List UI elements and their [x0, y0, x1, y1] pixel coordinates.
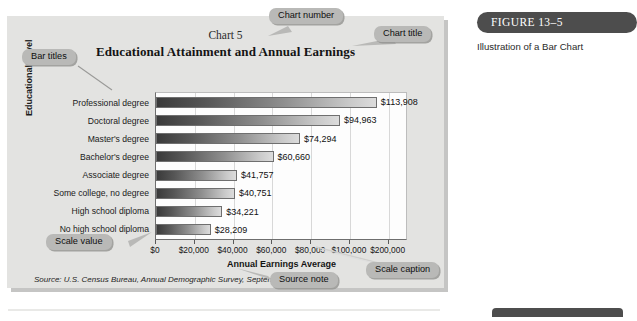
bar-series: $113,908$94,963$74,294$60,660$41,757$40,… — [156, 93, 406, 239]
figure-number-label: FIGURE 13–5 — [491, 16, 563, 28]
bar-row: $34,221 — [156, 203, 406, 221]
callout-chart-number: Chart number — [269, 8, 343, 24]
category-label: Master's degree — [37, 130, 152, 148]
callout-source-note: Source note — [270, 272, 338, 288]
x-axis-tick-label: $40,000 — [217, 245, 247, 255]
x-axis-tick — [310, 240, 311, 244]
category-label: Bachelor's degree — [37, 148, 152, 166]
bar-value-label: $40,751 — [239, 188, 272, 198]
bar-row: $113,908 — [156, 93, 406, 111]
bar-row: $28,209 — [156, 221, 406, 239]
bar — [156, 206, 222, 217]
x-axis-tick — [194, 240, 195, 244]
bar-value-label: $74,294 — [304, 134, 337, 144]
plot-area: $113,908$94,963$74,294$60,660$41,757$40,… — [155, 92, 407, 240]
figure-caption-text: Illustration of a Bar Chart — [477, 41, 583, 52]
bar-value-label: $28,209 — [215, 225, 248, 235]
category-label: Associate degree — [37, 166, 152, 184]
x-axis-tick-labels: $0$20,000$40,000$60,000$80,000$100,000$2… — [155, 245, 408, 257]
x-axis-tick-label: $60,000 — [256, 245, 286, 255]
callout-chart-title: Chart title — [374, 26, 431, 42]
bar-value-label: $60,660 — [278, 152, 311, 162]
bar-value-label: $34,221 — [226, 207, 259, 217]
bar — [156, 188, 235, 199]
bar — [156, 115, 340, 126]
x-axis-tick-label: $200,000 — [370, 245, 405, 255]
bar-row: $41,757 — [156, 166, 406, 184]
x-axis-tick — [155, 240, 156, 244]
x-axis-tick-label: $20,000 — [179, 245, 209, 255]
callout-scale-value: Scale value — [46, 234, 112, 250]
bar-row: $74,294 — [156, 130, 406, 148]
x-axis-tick-label: $0 — [150, 245, 159, 255]
category-label: Some college, no degree — [37, 184, 152, 202]
bar — [156, 151, 274, 162]
callout-bar-titles: Bar titles — [22, 49, 76, 65]
x-axis-tick — [349, 240, 350, 244]
category-label-column: Professional degreeDoctoral degreeMaster… — [37, 94, 152, 238]
category-label: High school diploma — [37, 202, 152, 220]
bar-value-label: $94,963 — [344, 115, 377, 125]
bar-row: $60,660 — [156, 148, 406, 166]
page-divider-rule — [8, 309, 440, 311]
category-label: Doctoral degree — [37, 112, 152, 130]
bar-row: $94,963 — [156, 111, 406, 129]
bar — [156, 97, 377, 108]
x-axis-tick-label: $80,000 — [295, 245, 325, 255]
bar-row: $40,751 — [156, 184, 406, 202]
x-axis-tick — [388, 240, 389, 244]
figure-number-pill: FIGURE 13–5 — [477, 12, 637, 33]
bar — [156, 133, 300, 144]
x-axis-tick — [271, 240, 272, 244]
category-label: Professional degree — [37, 94, 152, 112]
bar-value-label: $113,908 — [381, 97, 418, 107]
page-footer-tab — [492, 308, 623, 317]
source-note-text: Source: U.S. Census Bureau, Annual Demog… — [34, 275, 308, 284]
bar — [156, 224, 211, 235]
x-axis-tick — [233, 240, 234, 244]
callout-scale-caption: Scale caption — [366, 262, 439, 278]
x-axis-tick-label: $100,000 — [331, 245, 366, 255]
bar-value-label: $41,757 — [241, 170, 274, 180]
bar — [156, 170, 237, 181]
